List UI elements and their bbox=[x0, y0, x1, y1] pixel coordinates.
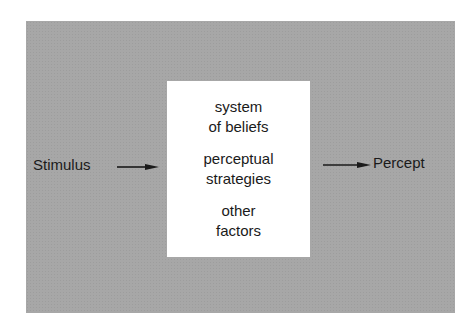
process-line: system bbox=[208, 97, 268, 117]
percept-label: Percept bbox=[373, 154, 425, 172]
process-box: system of beliefs perceptual strategies … bbox=[167, 81, 310, 257]
process-line: strategies bbox=[203, 169, 273, 189]
process-line: other bbox=[216, 201, 261, 221]
output-arrow-icon bbox=[323, 160, 373, 170]
process-line: of beliefs bbox=[208, 117, 268, 137]
process-item-other-factors: other factors bbox=[216, 201, 261, 241]
process-line: perceptual bbox=[203, 149, 273, 169]
input-arrow-icon bbox=[117, 162, 161, 172]
stimulus-label: Stimulus bbox=[33, 156, 91, 174]
process-line: factors bbox=[216, 221, 261, 241]
process-item-perceptual-strategies: perceptual strategies bbox=[203, 149, 273, 189]
process-item-system-of-beliefs: system of beliefs bbox=[208, 97, 268, 137]
